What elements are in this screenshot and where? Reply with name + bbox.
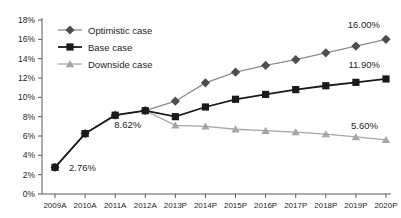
data-point-marker-square <box>202 103 209 110</box>
data-point-marker-diamond <box>261 61 270 70</box>
data-point-marker-diamond <box>231 68 240 77</box>
chart-container: 0%2%4%6%8%10%12%14%16%18% 2009A2010A2011… <box>0 0 401 218</box>
series-line <box>55 79 386 167</box>
y-axis-tick-label: 12% <box>18 73 35 83</box>
x-axis-tick-label: 2013P <box>164 201 187 210</box>
x-axis-tick-label: 2017P <box>284 201 307 210</box>
y-axis-tick-label: 2% <box>23 170 36 180</box>
series-layer <box>50 35 390 172</box>
data-point-marker-square <box>352 79 359 86</box>
data-point-marker-square <box>142 107 149 114</box>
data-point-marker-square <box>232 96 239 103</box>
legend-label: Optimistic case <box>88 25 152 36</box>
x-axis-tick-label: 2009A <box>43 201 67 210</box>
data-point-marker-diamond <box>381 35 390 44</box>
data-point-marker-diamond <box>201 78 210 87</box>
data-point-marker-square <box>292 86 299 93</box>
y-axis-tick-label: 16% <box>18 34 35 44</box>
data-label: 11.90% <box>348 59 380 70</box>
x-axis: 2009A2010A2011A2012A2013P2014P2015P2016P… <box>42 194 398 210</box>
data-label: 8.62% <box>114 119 141 130</box>
y-axis-tick-label: 18% <box>18 15 35 25</box>
data-point-marker-square <box>81 130 88 137</box>
y-axis-tick-label: 6% <box>23 131 36 141</box>
legend-item-base-case[interactable]: Base case <box>58 42 132 53</box>
x-axis-tick-label: 2010A <box>74 201 98 210</box>
x-axis-tick-label: 2011A <box>104 201 127 210</box>
legend-item-downside-case[interactable]: Downside case <box>58 59 152 70</box>
x-axis-tick-label: 2016P <box>254 201 277 210</box>
line-chart: 0%2%4%6%8%10%12%14%16%18% 2009A2010A2011… <box>0 0 401 218</box>
data-label: 5.60% <box>351 120 378 131</box>
y-axis-tick-label: 14% <box>18 54 35 64</box>
data-point-marker-diamond <box>351 42 360 51</box>
x-axis-tick-label: 2012A <box>134 201 158 210</box>
series-downside-case <box>51 107 390 171</box>
x-axis-tick-label: 2018P <box>314 201 337 210</box>
data-point-marker-diamond <box>321 48 330 57</box>
data-point-marker-square <box>262 91 269 98</box>
legend-item-optimistic-case[interactable]: Optimistic case <box>58 25 152 36</box>
x-axis-tick-label: 2020P <box>374 201 397 210</box>
data-point-marker-square <box>51 164 58 171</box>
data-point-marker-diamond <box>291 55 300 64</box>
chart-legend: Optimistic caseBase caseDownside case <box>58 25 152 70</box>
data-point-marker-square <box>322 82 329 89</box>
data-point-marker-diamond <box>171 97 180 106</box>
y-axis-tick-label: 4% <box>23 150 36 160</box>
data-label: 2.76% <box>69 162 96 173</box>
data-point-marker-square <box>172 113 179 120</box>
y-axis-tick-label: 8% <box>23 112 36 122</box>
legend-label: Base case <box>88 42 132 53</box>
x-axis-tick-label: 2019P <box>344 201 367 210</box>
series-line <box>55 111 386 168</box>
x-axis-tick-label: 2015P <box>224 201 247 210</box>
data-point-marker-diamond <box>65 25 74 34</box>
data-point-marker-square <box>382 75 389 82</box>
data-point-marker-square <box>66 43 73 50</box>
series-base-case <box>51 75 389 171</box>
y-axis-tick-label: 10% <box>18 92 35 102</box>
data-label: 16.00% <box>348 19 381 30</box>
legend-label: Downside case <box>88 59 152 70</box>
y-axis: 0%2%4%6%8%10%12%14%16%18% <box>18 15 42 199</box>
y-axis-tick-label: 0% <box>23 189 36 199</box>
x-axis-tick-label: 2014P <box>194 201 217 210</box>
